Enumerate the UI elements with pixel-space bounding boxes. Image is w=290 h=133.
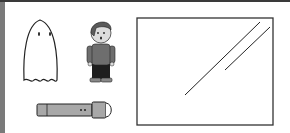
scene-canvas	[0, 0, 290, 133]
ghost-icon	[24, 20, 57, 81]
flashlight-icon	[37, 102, 111, 118]
window-pane-icon	[137, 18, 273, 125]
boy-icon	[87, 22, 115, 82]
